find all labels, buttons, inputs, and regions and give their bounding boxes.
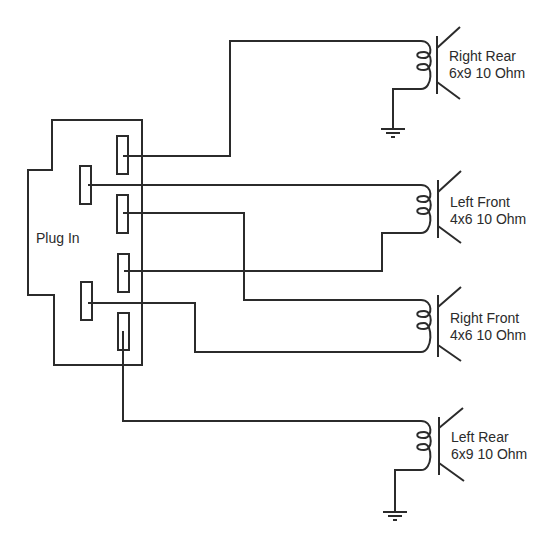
connector-pin-4 xyxy=(118,254,129,292)
speaker-spec: 6x9 10 Ohm xyxy=(451,446,527,462)
ground-icon xyxy=(381,129,405,137)
speaker-spec: 6x9 10 Ohm xyxy=(449,65,525,81)
connector-pin-5 xyxy=(81,282,92,320)
wire-pin4-left-front xyxy=(124,233,421,271)
speaker-right-rear: Right Rear 6x9 10 Ohm xyxy=(417,27,525,99)
wire-right-rear-ground xyxy=(393,89,421,128)
speaker-name: Right Front xyxy=(450,310,519,326)
speaker-spec: 4x6 10 Ohm xyxy=(450,211,526,227)
speaker-name: Left Front xyxy=(450,194,510,210)
speaker-left-rear: Left Rear 6x9 10 Ohm xyxy=(417,408,527,481)
speaker-right-front: Right Front 4x6 10 Ohm xyxy=(417,287,526,361)
voice-coil-icon xyxy=(417,421,431,470)
wiring-diagram: Plug In Right Rear 6x9 10 Ohm Left xyxy=(0,0,545,546)
speaker-name: Left Rear xyxy=(451,429,509,445)
speaker-name: Right Rear xyxy=(449,48,516,64)
plug-label: Plug In xyxy=(36,230,80,246)
voice-coil-icon xyxy=(417,300,431,352)
wire-pin3-right-front xyxy=(123,213,421,300)
ground-icon xyxy=(383,512,407,520)
voice-coil-icon xyxy=(417,41,431,89)
voice-coil-icon xyxy=(417,185,431,233)
speaker-spec: 4x6 10 Ohm xyxy=(450,327,526,343)
wire-left-rear-ground xyxy=(395,470,421,511)
speaker-left-front: Left Front 4x6 10 Ohm xyxy=(417,171,526,243)
wire-pin1-right-rear xyxy=(123,41,421,156)
wire-pin5-right-front xyxy=(88,303,421,352)
wire-pin6-left-rear xyxy=(123,331,421,421)
